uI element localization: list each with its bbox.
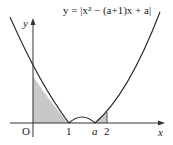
tick-label-a: a: [92, 126, 98, 137]
x-axis-label: x: [158, 127, 163, 138]
curve-hump: [69, 117, 95, 123]
tick-label-1: 1: [66, 126, 72, 137]
x-axis-arrow-icon: [158, 121, 165, 126]
origin-label: O: [22, 126, 30, 137]
equation-label: y = |x² − (a+1)x + a|: [63, 5, 151, 16]
y-axis-arrow-icon: [31, 18, 36, 25]
y-axis-label: y: [23, 18, 28, 29]
curve-right-branch: [95, 12, 160, 123]
tick-label-2: 2: [104, 126, 110, 137]
